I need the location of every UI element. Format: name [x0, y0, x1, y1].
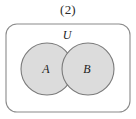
universe-label: U	[63, 28, 73, 42]
venn-diagram-canvas: U A B	[0, 0, 136, 119]
venn-diagram-figure: (2) U A B	[0, 0, 136, 119]
set-b-label: B	[83, 62, 91, 76]
set-a-label: A	[41, 62, 50, 76]
